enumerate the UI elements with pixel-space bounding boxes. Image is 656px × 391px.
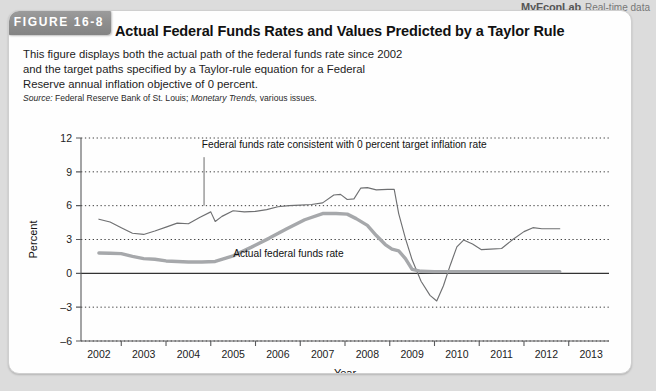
series-taylor-rule-rate	[99, 188, 560, 301]
y-tick-label-9: 9	[66, 166, 72, 178]
y-tick-label--6: –6	[60, 335, 72, 347]
y-tick-label-0: 0	[66, 267, 72, 279]
chart-area: 129630–3–6200220032004200520062007200820…	[9, 115, 631, 373]
x-tick-label-2013: 2013	[579, 348, 603, 360]
source-italic: Monetary Trends,	[191, 93, 258, 103]
source-text: Federal Reserve Bank of St. Louis;	[55, 93, 188, 103]
x-tick-label-2007: 2007	[311, 348, 335, 360]
y-tick-label-3: 3	[66, 233, 72, 245]
x-tick-label-2002: 2002	[87, 348, 111, 360]
figure-card: FIGURE 16-8 Actual Federal Funds Rates a…	[8, 10, 632, 374]
figure-number-badge: FIGURE 16-8	[8, 10, 111, 35]
x-tick-label-2009: 2009	[400, 348, 424, 360]
x-tick-label-2005: 2005	[221, 348, 245, 360]
x-tick-label-2012: 2012	[535, 348, 559, 360]
source-label: Source:	[23, 93, 53, 103]
figure-source: Source: Federal Reserve Bank of St. Loui…	[23, 93, 443, 104]
figure-page: MyEconLab Real-time data FIGURE 16-8 Act…	[0, 0, 656, 391]
y-tick-label-6: 6	[66, 199, 72, 211]
source-tail: various issues.	[260, 93, 317, 103]
figure-number-label: FIGURE 16-8	[14, 15, 104, 29]
taylor-rule-label: Federal funds rate consistent with 0 per…	[202, 139, 487, 150]
x-axis-label: Year	[334, 367, 357, 373]
x-tick-label-2003: 2003	[132, 348, 156, 360]
x-tick-label-2008: 2008	[356, 348, 380, 360]
line-chart: 129630–3–6200220032004200520062007200820…	[9, 115, 631, 373]
figure-description: This figure displays both the actual pat…	[23, 47, 403, 93]
series-actual-federal-funds-rate	[99, 214, 560, 272]
y-axis-label: Percent	[27, 221, 39, 259]
page-title: Actual Federal Funds Rates and Values Pr…	[115, 23, 615, 39]
actual-rate-label: Actual federal funds rate	[233, 248, 344, 259]
x-tick-label-2011: 2011	[490, 348, 513, 360]
y-tick-label-12: 12	[60, 132, 72, 144]
x-tick-label-2006: 2006	[266, 348, 290, 360]
y-tick-label--3: –3	[60, 301, 72, 313]
x-tick-label-2010: 2010	[445, 348, 469, 360]
x-tick-label-2004: 2004	[177, 348, 201, 360]
